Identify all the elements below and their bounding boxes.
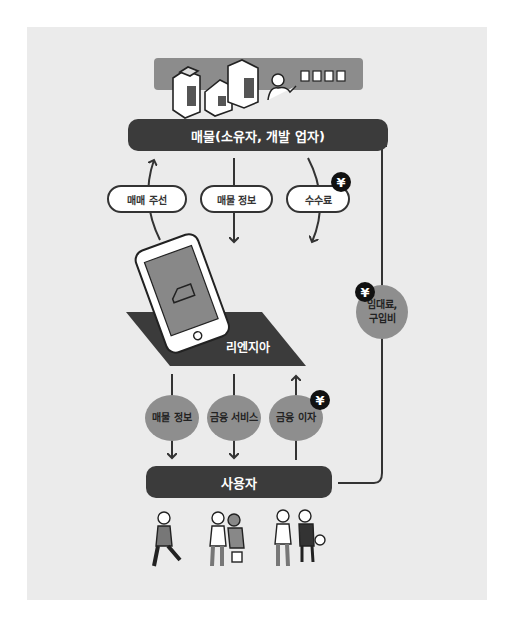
users-label: 사용자 — [221, 473, 257, 492]
flow-rent-line2: 구입비 — [369, 312, 396, 326]
flow-brokerage: 매매 주선 — [107, 185, 187, 213]
flow-financial-interest-label: 금융 이자 — [276, 411, 315, 425]
flow-brokerage-label: 매매 주선 — [127, 192, 166, 207]
yen-icon: ¥ — [310, 390, 330, 410]
flow-property-info-top-label: 매물 정보 — [217, 192, 256, 207]
flow-financial-services-label: 금융 서비스 — [210, 411, 258, 425]
users-bar: 사용자 — [146, 466, 332, 498]
flow-rent-line1: 임대료, — [367, 298, 398, 312]
flow-financial-services: 금융 서비스 — [207, 395, 261, 441]
flow-property-info-top: 매물 정보 — [200, 185, 273, 213]
flow-commission-label: 수수료 — [305, 192, 332, 207]
property-owners-bar: 매물(소유자, 개발 업자) — [128, 119, 388, 151]
flow-property-info-bottom-label: 매물 정보 — [152, 411, 191, 425]
flow-arrows — [0, 0, 512, 627]
header-text-cropped — [250, 0, 440, 8]
property-owners-label: 매물(소유자, 개발 업자) — [191, 126, 325, 145]
platform-label: 리엔지아 — [226, 338, 270, 355]
flow-property-info-bottom: 매물 정보 — [145, 395, 199, 441]
yen-icon: ¥ — [331, 172, 351, 192]
yen-icon: ¥ — [355, 282, 375, 302]
